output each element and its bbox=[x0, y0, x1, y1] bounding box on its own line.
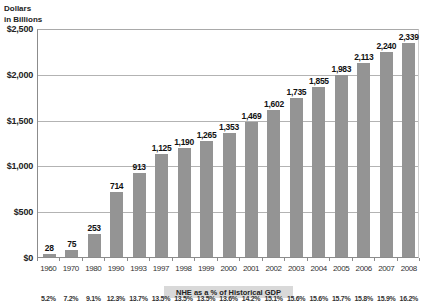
x-axis-tick bbox=[127, 258, 128, 261]
y-tick-label: $1,500 bbox=[0, 116, 33, 126]
x-axis-tick bbox=[82, 258, 83, 261]
x-axis-tick bbox=[419, 258, 420, 261]
x-axis-tick bbox=[149, 258, 150, 261]
gdp-percent-value-2005: 15.7% bbox=[330, 295, 353, 302]
bar-1970 bbox=[65, 250, 78, 257]
bar-1993 bbox=[133, 173, 146, 257]
year-label-1999: 1999 bbox=[195, 264, 218, 273]
gdp-percent-value-2007: 15.9% bbox=[375, 295, 398, 302]
y-tick-label: $1,000 bbox=[0, 161, 33, 171]
year-label-2000: 2000 bbox=[217, 264, 240, 273]
year-label-2003: 2003 bbox=[285, 264, 308, 273]
y-tick-label: $0 bbox=[0, 253, 33, 263]
gdp-percent-value-1970: 7.2% bbox=[60, 295, 83, 302]
year-label-2001: 2001 bbox=[240, 264, 263, 273]
bar-1990 bbox=[110, 192, 123, 257]
x-axis-tick bbox=[59, 258, 60, 261]
year-label-2008: 2008 bbox=[398, 264, 421, 273]
year-label-1993: 1993 bbox=[127, 264, 150, 273]
gdp-percent-value-1993: 13.7% bbox=[127, 295, 150, 302]
plot-area: 28752537149131,1251,1901,2651,3531,4691,… bbox=[37, 29, 419, 258]
x-axis-tick bbox=[374, 258, 375, 261]
x-axis-tick bbox=[104, 258, 105, 261]
year-label-1960: 1960 bbox=[37, 264, 60, 273]
x-axis-tick bbox=[217, 258, 218, 261]
bar-2003 bbox=[290, 98, 303, 257]
x-axis-tick bbox=[262, 258, 263, 261]
year-label-2006: 2006 bbox=[352, 264, 375, 273]
gdp-percent-value-1997: 13.5% bbox=[150, 295, 173, 302]
gdp-percent-value-2000: 13.6% bbox=[217, 295, 240, 302]
bar-2006 bbox=[357, 63, 370, 257]
gdp-percent-value-1960: 5.2% bbox=[37, 295, 60, 302]
bar-1997 bbox=[155, 154, 168, 257]
y-axis-title: Dollars in Billions bbox=[4, 3, 42, 25]
bar-1998 bbox=[178, 148, 191, 257]
bar-2007 bbox=[380, 52, 393, 257]
year-label-2004: 2004 bbox=[307, 264, 330, 273]
gdp-percent-value-2003: 15.6% bbox=[285, 295, 308, 302]
bar-2004 bbox=[312, 87, 325, 257]
gdp-percent-value-2008: 16.2% bbox=[398, 295, 421, 302]
gdp-percent-values-row: 5.2%7.2%9.1%12.3%13.7%13.5%13.5%13.5%13.… bbox=[37, 295, 420, 302]
x-axis-tick bbox=[172, 258, 173, 261]
gdp-percent-value-1998: 13.5% bbox=[172, 295, 195, 302]
x-axis-tick bbox=[307, 258, 308, 261]
gdp-percent-value-1999: 13.5% bbox=[195, 295, 218, 302]
bar-2001 bbox=[245, 122, 258, 257]
x-axis-tick bbox=[329, 258, 330, 261]
gdp-percent-value-2006: 15.8% bbox=[352, 295, 375, 302]
x-axis-year-labels: 1960197019801990199319971998199920002001… bbox=[37, 264, 420, 273]
x-axis-tick bbox=[352, 258, 353, 261]
year-label-2005: 2005 bbox=[330, 264, 353, 273]
bar-2008 bbox=[402, 43, 415, 257]
x-axis-tick bbox=[284, 258, 285, 261]
year-label-2007: 2007 bbox=[375, 264, 398, 273]
year-label-1997: 1997 bbox=[150, 264, 173, 273]
gdp-percent-value-2002: 15.1% bbox=[262, 295, 285, 302]
bar-2000 bbox=[223, 133, 236, 257]
year-label-1998: 1998 bbox=[172, 264, 195, 273]
x-axis-tick bbox=[239, 258, 240, 261]
year-label-1980: 1980 bbox=[82, 264, 105, 273]
nhe-bar-chart: Dollars in Billions $0$500$1,000$1,500$2… bbox=[0, 0, 425, 307]
y-axis-title-line1: Dollars bbox=[4, 3, 42, 14]
bar-value-label: 2,339 bbox=[387, 32, 425, 42]
gdp-percent-value-1980: 9.1% bbox=[82, 295, 105, 302]
bar-2002 bbox=[267, 110, 280, 257]
y-tick-label: $500 bbox=[0, 207, 33, 217]
year-label-1970: 1970 bbox=[60, 264, 83, 273]
bar-1999 bbox=[200, 141, 213, 257]
year-label-2002: 2002 bbox=[262, 264, 285, 273]
bar-1960 bbox=[43, 254, 56, 257]
y-tick-label: $2,500 bbox=[0, 24, 33, 34]
gdp-percent-value-1990: 12.3% bbox=[105, 295, 128, 302]
x-axis-tick bbox=[397, 258, 398, 261]
y-tick-label: $2,000 bbox=[0, 70, 33, 80]
bar-1980 bbox=[88, 234, 101, 257]
gdp-percent-value-2001: 14.2% bbox=[240, 295, 263, 302]
bar-2005 bbox=[335, 75, 348, 257]
year-label-1990: 1990 bbox=[105, 264, 128, 273]
x-axis-tick bbox=[37, 258, 38, 261]
x-axis-tick bbox=[194, 258, 195, 261]
gdp-percent-value-2004: 15.6% bbox=[307, 295, 330, 302]
